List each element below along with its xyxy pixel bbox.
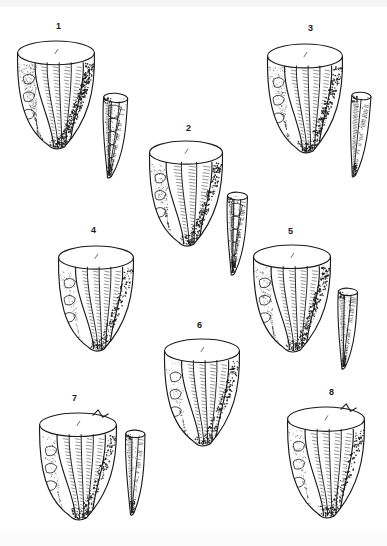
bladelet-3 xyxy=(341,87,375,183)
figure-number-2: 2 xyxy=(186,124,191,133)
bladelet-5 xyxy=(329,283,363,375)
conical-core-8 xyxy=(280,400,372,528)
conical-core-3 xyxy=(260,37,350,163)
conical-core-7 xyxy=(32,406,124,530)
figure-number-3: 3 xyxy=(308,24,313,33)
figure-number-5: 5 xyxy=(288,227,293,236)
conical-core-2 xyxy=(142,134,230,256)
conical-core-6 xyxy=(157,332,247,456)
figure-number-7: 7 xyxy=(72,394,77,403)
page-bottom-edge xyxy=(0,532,387,546)
figure-number-1: 1 xyxy=(56,22,61,31)
illustration-plate: 12345678 xyxy=(0,0,387,546)
bladelet-7 xyxy=(117,425,151,521)
conical-core-5 xyxy=(246,238,338,362)
figure-number-8: 8 xyxy=(329,388,334,397)
conical-core-1 xyxy=(10,34,102,159)
conical-core-4 xyxy=(51,239,141,361)
figure-number-4: 4 xyxy=(91,226,96,235)
bladelet-1 xyxy=(93,88,133,184)
figure-number-6: 6 xyxy=(197,321,202,330)
page-top-edge xyxy=(0,0,387,7)
